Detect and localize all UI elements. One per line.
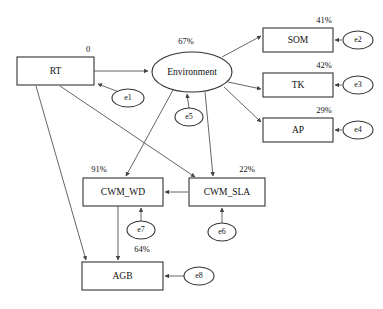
- path-arrow-environment-to-tk: [228, 82, 261, 89]
- variance-label-tk: 42%: [316, 60, 332, 70]
- sem-path-diagram: RT0SOM41%TK42%AP29%CWM_WD91%CWM_SLA22%AG…: [0, 0, 383, 309]
- path-arrow-rt-to-agb: [36, 86, 86, 260]
- error-term-label-e3: e3: [354, 80, 362, 89]
- node-label-environment: Environment: [167, 67, 217, 77]
- variance-label-ap: 29%: [316, 105, 332, 115]
- node-label-som: SOM: [288, 35, 309, 45]
- node-label-cwm_sla: CWM_SLA: [204, 187, 251, 197]
- path-arrow-environment-to-cwm_sla: [205, 92, 213, 176]
- error-term-label-e8: e8: [195, 271, 203, 280]
- node-label-tk: TK: [292, 80, 305, 90]
- variance-label-environment: 67%: [178, 36, 194, 46]
- path-arrow-environment-to-ap: [224, 87, 261, 122]
- error-term-label-e7: e7: [137, 225, 145, 234]
- node-label-agb: AGB: [112, 271, 132, 281]
- node-label-ap: AP: [292, 125, 304, 135]
- error-term-label-e4: e4: [354, 125, 362, 134]
- nodes-group: RT0SOM41%TK42%AP29%CWM_WD91%CWM_SLA22%AG…: [17, 15, 373, 290]
- variance-label-agb: 64%: [134, 244, 150, 254]
- error-term-label-e2: e2: [354, 35, 362, 44]
- error-term-label-e5: e5: [185, 112, 193, 121]
- variance-label-rt: 0: [86, 44, 90, 54]
- variance-label-som: 41%: [316, 15, 332, 25]
- node-label-cwm_wd: CWM_WD: [101, 187, 145, 197]
- node-label-rt: RT: [50, 66, 62, 76]
- error-term-label-e6: e6: [218, 227, 226, 236]
- variance-label-cwm_wd: 91%: [91, 164, 107, 174]
- path-arrow-e5-to-environment: [187, 94, 189, 108]
- path-arrow-environment-to-som: [222, 36, 261, 57]
- error-term-label-e1: e1: [124, 93, 132, 102]
- path-arrow-e1-to-rt: [98, 84, 119, 92]
- variance-label-cwm_sla: 22%: [239, 164, 255, 174]
